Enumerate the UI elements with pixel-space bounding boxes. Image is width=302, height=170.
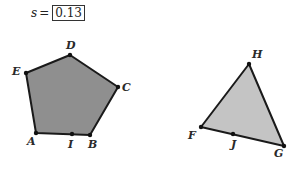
vertex-b-point[interactable] (88, 133, 92, 137)
vertex-f-label: F (187, 129, 197, 142)
vertex-f-point[interactable] (199, 125, 203, 129)
midpoint-j-point[interactable] (231, 132, 235, 136)
triangle-FGH[interactable] (201, 64, 284, 146)
midpoint-i-label: I (67, 138, 74, 151)
pentagon-figure: ABCDEI (11, 39, 131, 151)
triangle-figure: FGHJ (187, 48, 286, 160)
vertex-g-label: G (274, 147, 283, 160)
vertex-b-label: B (87, 138, 97, 151)
vertex-a-label: A (26, 135, 36, 148)
geometry-canvas: ABCDEI FGHJ (0, 0, 302, 170)
vertex-c-point[interactable] (116, 85, 120, 89)
midpoint-j-label: J (229, 138, 237, 151)
vertex-h-point[interactable] (247, 62, 251, 66)
vertex-c-label: C (122, 81, 131, 94)
midpoint-i-point[interactable] (70, 132, 74, 136)
vertex-h-label: H (251, 48, 263, 61)
vertex-d-label: D (65, 39, 76, 52)
vertex-e-point[interactable] (24, 71, 28, 75)
vertex-e-label: E (11, 65, 21, 78)
vertex-d-point[interactable] (68, 53, 72, 57)
pentagon-ABCDE[interactable] (26, 55, 118, 135)
